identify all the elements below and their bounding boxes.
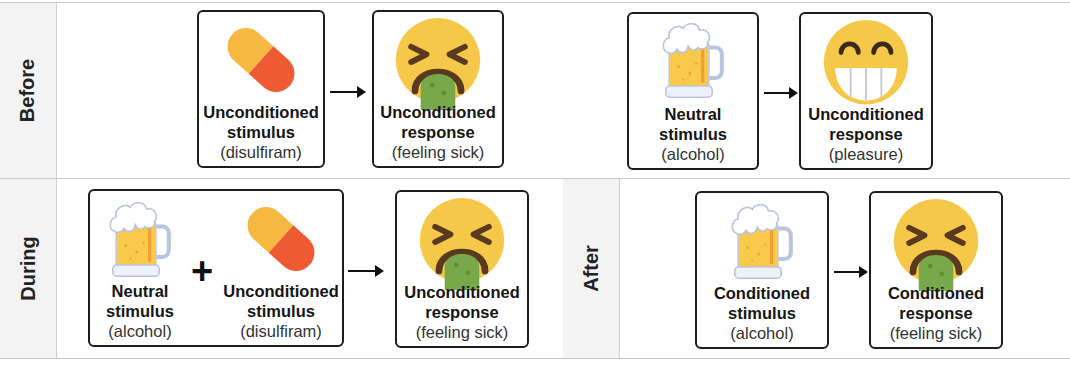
during-unconditioned-subtitle: stimulus (218, 301, 344, 321)
after-stimulus-card: Conditioned stimulus (alcohol) (695, 191, 829, 349)
during-response-title: Unconditioned (395, 282, 529, 302)
grid-line-top (0, 2, 1070, 3)
vomiting-face-icon (390, 16, 486, 112)
pill-icon (235, 193, 327, 285)
divider-after (619, 179, 620, 358)
arrow-icon (330, 91, 364, 93)
before-pleasure-card: Unconditioned response (pleasure) (799, 12, 933, 170)
beer-mug-icon (722, 195, 802, 283)
before-neutral-card: Neutral stimulus (alcohol) (627, 12, 759, 170)
after-stimulus-subtitle: stimulus (695, 303, 829, 323)
divider-before (56, 3, 57, 178)
vomiting-face-icon (888, 197, 984, 293)
before-stimulus-detail: (disulfiram) (197, 142, 325, 162)
grid-line-middle (0, 178, 1070, 179)
row-label-before: Before (0, 3, 56, 178)
vomiting-face-icon (414, 196, 510, 292)
after-response-subtitle: response (869, 303, 1003, 323)
pill-icon (215, 14, 307, 106)
before-stimulus-card: Unconditioned stimulus (disulfiram) (197, 10, 325, 168)
before-response-detail: (feeling sick) (372, 142, 504, 162)
after-response-detail: (feeling sick) (869, 323, 1003, 343)
divider-during (56, 179, 57, 358)
before-stimulus-title: Unconditioned (197, 102, 325, 122)
before-response-subtitle: response (372, 122, 504, 142)
arrow-icon (834, 271, 866, 273)
after-response-card: Conditioned response (feeling sick) (869, 191, 1003, 349)
after-stimulus-title: Conditioned (695, 283, 829, 303)
grinning-face-icon (818, 18, 914, 114)
beer-mug-icon (100, 193, 180, 281)
row-label-after: After (563, 179, 619, 358)
before-pleasure-detail: (pleasure) (799, 144, 933, 164)
grid-line-bottom (0, 358, 1070, 359)
during-neutral-card: Neutral stimulus (alcohol) (92, 189, 188, 347)
before-pleasure-title: Unconditioned (799, 104, 933, 124)
row-label-during: During (0, 179, 56, 358)
beer-mug-icon (653, 14, 733, 102)
during-unconditioned-detail: (disulfiram) (218, 321, 344, 341)
before-stimulus-subtitle: stimulus (197, 122, 325, 142)
before-response-card: Unconditioned response (feeling sick) (372, 10, 504, 168)
row-label-during-text: During (17, 236, 40, 300)
during-unconditioned-card: Unconditioned stimulus (disulfiram) (218, 189, 344, 347)
arrow-icon (348, 270, 382, 272)
plus-icon: + (191, 252, 213, 290)
during-neutral-detail: (alcohol) (92, 321, 188, 341)
row-label-before-text: Before (17, 59, 40, 122)
before-pleasure-subtitle: response (799, 124, 933, 144)
arrow-icon (764, 92, 796, 94)
during-neutral-title: Neutral (92, 281, 188, 301)
during-response-detail: (feeling sick) (395, 322, 529, 342)
before-neutral-subtitle: stimulus (627, 124, 759, 144)
during-response-card: Unconditioned response (feeling sick) (395, 190, 529, 348)
during-response-subtitle: response (395, 302, 529, 322)
before-neutral-detail: (alcohol) (627, 144, 759, 164)
row-label-after-text: After (579, 245, 602, 292)
before-neutral-title: Neutral (627, 104, 759, 124)
during-unconditioned-title: Unconditioned (218, 281, 344, 301)
during-neutral-subtitle: stimulus (92, 301, 188, 321)
after-response-title: Conditioned (869, 283, 1003, 303)
after-stimulus-detail: (alcohol) (695, 323, 829, 343)
before-response-title: Unconditioned (372, 102, 504, 122)
